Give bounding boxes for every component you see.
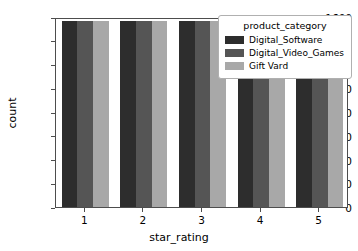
bar-group <box>120 19 167 207</box>
x-tick-mark <box>201 208 202 212</box>
legend-item[interactable]: Digital_Software <box>225 34 345 46</box>
x-tick-label: 4 <box>257 214 264 226</box>
legend-item[interactable]: Gift Vard <box>225 60 345 72</box>
bar <box>77 21 93 207</box>
x-tick-mark <box>318 208 319 212</box>
bar <box>179 21 195 207</box>
bar-group <box>62 19 109 207</box>
bar-chart-figure: count 02004006008001000120014001600 1234… <box>0 0 358 251</box>
legend-item[interactable]: Digital_Video_Games <box>225 47 345 59</box>
x-tick-mark <box>84 208 85 212</box>
legend: product_category Digital_SoftwareDigital… <box>218 15 352 79</box>
x-tick-mark <box>142 208 143 212</box>
x-tick-label: 2 <box>140 214 147 226</box>
legend-item-label: Digital_Video_Games <box>249 48 344 58</box>
bar <box>195 21 211 207</box>
bar <box>120 21 136 207</box>
legend-rows: Digital_SoftwareDigital_Video_GamesGift … <box>225 34 345 72</box>
bar <box>152 21 168 207</box>
legend-item-label: Gift Vard <box>249 61 288 71</box>
x-tick-label: 5 <box>315 214 322 226</box>
bar <box>93 21 109 207</box>
bar <box>62 21 78 207</box>
x-tick-label: 1 <box>81 214 88 226</box>
legend-item-label: Digital_Software <box>249 35 322 45</box>
legend-swatch-icon <box>225 36 244 44</box>
x-tick-mark <box>260 208 261 212</box>
legend-title: product_category <box>225 20 345 31</box>
legend-swatch-icon <box>225 49 244 57</box>
bar <box>136 21 152 207</box>
legend-swatch-icon <box>225 62 244 70</box>
x-tick-label: 3 <box>198 214 205 226</box>
y-axis-label: count <box>6 18 20 208</box>
x-axis-label: star_rating <box>0 231 358 244</box>
